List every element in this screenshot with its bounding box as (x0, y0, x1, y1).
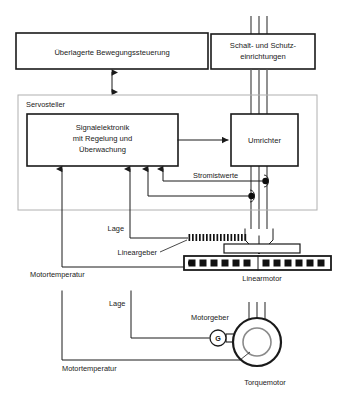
torque-motor: Torquemotor (233, 318, 286, 387)
current-values-label: Stromistwerte (193, 171, 238, 180)
switchgear-label-line1: Schalt- und Schutz- (230, 41, 297, 50)
current-sensor-upper-dot (262, 178, 268, 184)
motor-encoder-label: Motorgeber (191, 313, 229, 322)
linear-motor-temp-label: Motortemperatur (30, 270, 85, 279)
converter-block: Umrichter (231, 114, 298, 166)
switchgear-label-line2: einrichtungen (240, 52, 286, 61)
signal-electronics-label-line1: Signalelektronik (76, 123, 130, 132)
torque-motor-label: Torquemotor (244, 378, 286, 387)
converter-label: Umrichter (248, 136, 281, 145)
linear-motor-label: Linearmotor (242, 274, 282, 283)
rotary-motor-temp-label: Motortemperatur (62, 364, 117, 373)
linear-motor-temp-sensor-dot (188, 260, 194, 266)
three-phase-power-lines-top (251, 16, 267, 34)
signal-electronics-label-line2: mit Regelung und (73, 134, 133, 143)
linear-motor-track: Linearmotor (184, 256, 331, 283)
generator-symbol-label: G (215, 334, 221, 343)
diagram-root: Überlagerte Bewegungssteuerung Schalt- u… (0, 0, 348, 403)
rotary-position-label: Lage (109, 299, 125, 308)
signal-electronics-block: Signalelektronik mit Regelung und Überwa… (27, 114, 178, 166)
switchgear-block: Schalt- und Schutz- einrichtungen (211, 34, 315, 69)
linear-position-label: Lage (108, 224, 124, 233)
current-sensor-lower-dot (248, 193, 254, 199)
linear-motor-slider (224, 244, 300, 253)
servo-drive-block-diagram: Überlagerte Bewegungssteuerung Schalt- u… (0, 0, 348, 403)
motion-control-label: Überlagerte Bewegungssteuerung (54, 48, 169, 57)
linear-encoder-label: Lineargeber (118, 248, 158, 257)
motion-control-block: Überlagerte Bewegungssteuerung (16, 33, 208, 69)
motor-encoder: G Motorgeber (191, 313, 235, 346)
torque-motor-inner-circle (243, 328, 271, 356)
signal-electronics-label-line3: Überwachung (79, 145, 126, 154)
servo-controller-label: Servosteller (26, 100, 66, 109)
